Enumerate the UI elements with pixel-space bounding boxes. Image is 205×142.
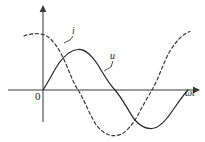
- y-axis-arrowhead-icon: [40, 5, 47, 12]
- waveform-figure: 0 i u ωt: [0, 0, 205, 142]
- waveform-plot-svg: [0, 0, 205, 142]
- voltage-label-leader-line: [104, 61, 113, 71]
- x-axis-label: ωt: [185, 88, 195, 98]
- voltage-curve-label: u: [110, 51, 115, 61]
- origin-label: 0: [35, 91, 41, 102]
- current-curve-label: i: [72, 26, 75, 36]
- current-label-leader-line: [64, 36, 73, 43]
